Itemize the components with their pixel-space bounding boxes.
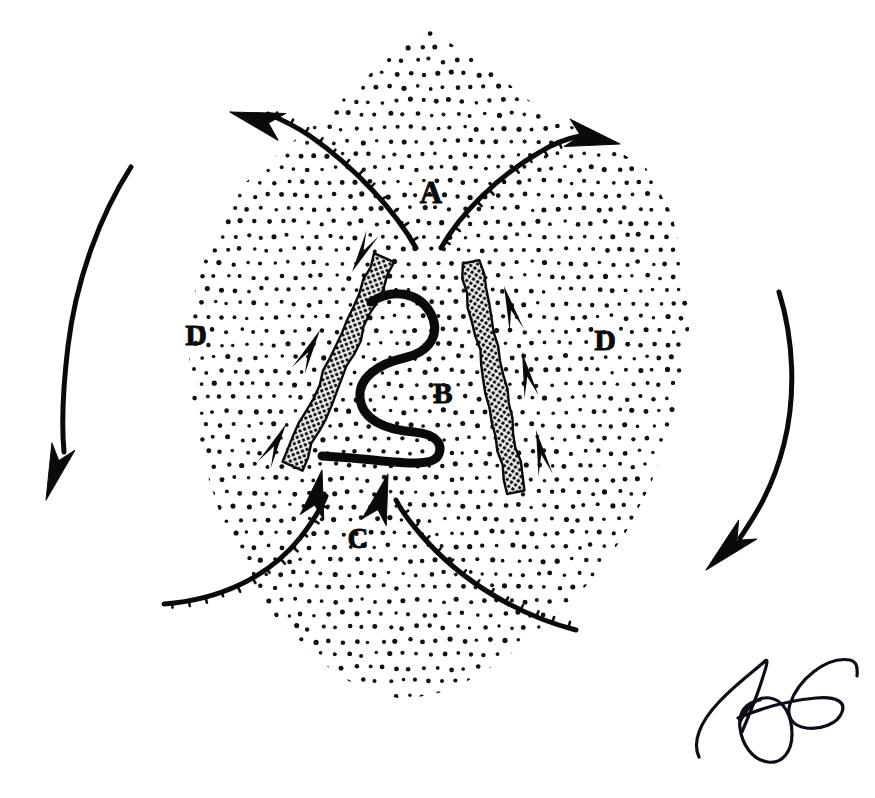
figure-root: ABCDD	[0, 0, 875, 798]
label-b: B	[433, 377, 452, 409]
label-d-left: D	[185, 318, 207, 351]
label-d-right: D	[594, 323, 616, 356]
label-c: C	[348, 522, 369, 554]
label-a: A	[420, 175, 443, 210]
diagram-canvas: ABCDD	[0, 0, 875, 798]
